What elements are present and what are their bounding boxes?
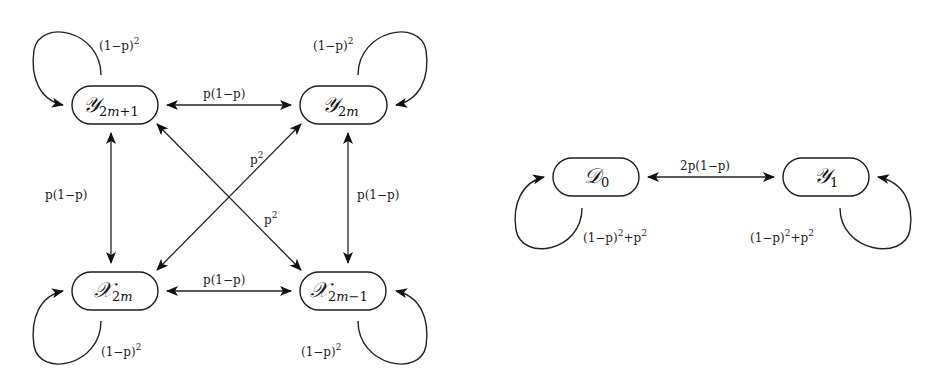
svg-text:(1−p)2+p2: (1−p)2+p2 [750, 228, 814, 245]
svg-text:2p(1−p): 2p(1−p) [680, 159, 730, 173]
edge-y2m1-x2m: p(1−p) [45, 133, 111, 263]
node-y-2m: 𝒴2m [300, 86, 387, 124]
svg-text:(1−p)2: (1−p)2 [301, 342, 341, 359]
svg-text:p(1−p): p(1−p) [357, 188, 399, 202]
svg-text:(1−p)2+p2: (1−p)2+p2 [583, 228, 647, 245]
edge-y2m1-y2m: p(1−p) [167, 87, 291, 105]
svg-text:p(1−p): p(1−p) [203, 87, 245, 101]
svg-text:p(1−p): p(1−p) [203, 273, 245, 287]
edge-d0-y1: 2p(1−p) [648, 159, 774, 177]
markov-chain-diagram: 𝒴2m+1 𝒴2m 𝒳2m 𝒳2m−1 p(1−p) p(1−p) p(1−p)… [0, 0, 939, 391]
svg-text:p(1−p): p(1−p) [45, 188, 87, 202]
node-x-2m: 𝒳2m [72, 272, 158, 310]
node-y-2m-plus-1: 𝒴2m+1 [72, 86, 158, 124]
edge-x2m-x2m1: p(1−p) [167, 273, 291, 291]
svg-text:(1−p)2: (1−p)2 [101, 342, 141, 359]
svg-text:(1−p)2: (1−p)2 [99, 36, 139, 53]
svg-text:(1−p)2: (1−p)2 [313, 36, 353, 53]
node-y-1: 𝒴1 [783, 158, 869, 196]
node-x-2m-minus-1: 𝒳2m−1 [300, 272, 386, 310]
edge-y2m-x2m1: p(1−p) [348, 133, 399, 263]
node-d-0: 𝒟0 [553, 158, 639, 196]
svg-text:p2: p2 [264, 210, 277, 227]
